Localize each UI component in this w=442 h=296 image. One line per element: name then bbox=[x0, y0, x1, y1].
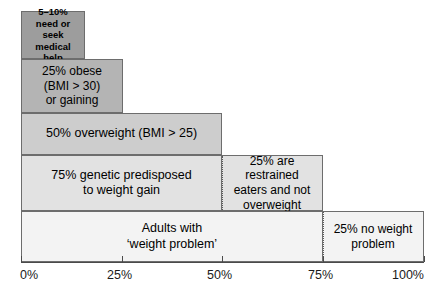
band-obese: 25% obese (BMI > 30) or gaining bbox=[21, 59, 123, 113]
band-genetic-predisposed-label: 75% genetic predisposed to weight gain bbox=[47, 168, 195, 199]
band-no-weight-problem-label: 25% no weight problem bbox=[330, 222, 417, 251]
band-medical-help-label: 5–10% need or seek medical help bbox=[22, 6, 84, 64]
x-tick-25 bbox=[122, 256, 123, 262]
x-tick-label-25: 25% bbox=[107, 268, 132, 282]
x-tick-50 bbox=[222, 256, 223, 262]
x-tick-label-50: 50% bbox=[207, 268, 232, 282]
band-adults-weight-problem: Adults with ‘weight problem’ bbox=[21, 211, 323, 262]
x-tick-0 bbox=[21, 256, 22, 262]
x-tick-label-0: 0% bbox=[20, 268, 38, 282]
band-restrained-eaters: 25% are restrained eaters and not overwe… bbox=[222, 155, 323, 211]
x-tick-label-75: 75% bbox=[308, 268, 333, 282]
divider-50-percent bbox=[222, 156, 223, 210]
x-tick-75 bbox=[323, 256, 324, 262]
x-axis-line bbox=[21, 262, 424, 263]
band-adults-weight-problem-label: Adults with ‘weight problem’ bbox=[123, 221, 221, 252]
band-genetic-predisposed: 75% genetic predisposed to weight gain bbox=[21, 155, 222, 211]
band-no-weight-problem: 25% no weight problem bbox=[323, 211, 424, 262]
band-overweight: 50% overweight (BMI > 25) bbox=[21, 113, 222, 155]
x-tick-label-100: 100% bbox=[392, 268, 424, 282]
divider-75-percent bbox=[323, 212, 324, 261]
band-obese-label: 25% obese (BMI > 30) or gaining bbox=[38, 64, 106, 108]
band-overweight-label: 50% overweight (BMI > 25) bbox=[42, 126, 201, 141]
band-medical-help: 5–10% need or seek medical help bbox=[21, 11, 85, 59]
band-restrained-eaters-label: 25% are restrained eaters and not overwe… bbox=[222, 154, 322, 213]
x-tick-100 bbox=[424, 256, 425, 262]
weight-problem-staircase-chart: 5–10% need or seek medical help 25% obes… bbox=[0, 0, 442, 296]
